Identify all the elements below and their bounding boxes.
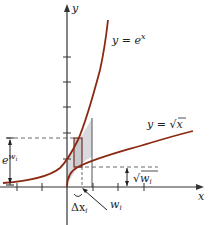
exp-curve-label: y = ex xyxy=(111,32,146,47)
x-axis-label: x xyxy=(198,190,205,203)
figure-canvas: y x y = ex y = √x ewi √wi Δxi wi xyxy=(0,0,213,225)
delta-x-label: Δxi xyxy=(71,201,87,215)
y-axis-label: y xyxy=(71,2,79,15)
sqrt-curve-label: y = √x xyxy=(146,118,183,131)
axis-ticks xyxy=(17,57,144,191)
sqrtw-label: √wi xyxy=(133,172,152,186)
representative-rectangle xyxy=(74,138,82,167)
w-pointer-line xyxy=(84,190,107,210)
w-label: wi xyxy=(110,198,122,212)
y-axis-arrow-icon xyxy=(64,4,70,12)
delta-x-brace xyxy=(74,194,82,197)
